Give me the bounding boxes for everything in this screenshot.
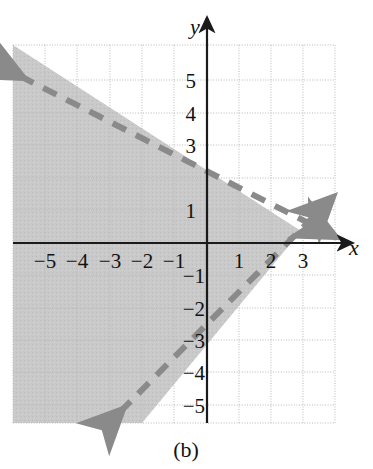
coordinate-plane-graph: x y −5 −4 −3 −2 −1 1 2 3 5 4 3 1 −1 −2 −… bbox=[0, 0, 373, 469]
x-tick-label: 2 bbox=[266, 249, 277, 273]
x-tick-label: −2 bbox=[131, 249, 153, 273]
figure-panel: x y −5 −4 −3 −2 −1 1 2 3 5 4 3 1 −1 −2 −… bbox=[0, 0, 373, 469]
y-tick-label: −2 bbox=[183, 297, 205, 321]
x-tick-label: 3 bbox=[298, 249, 309, 273]
x-tick-label: −3 bbox=[99, 249, 121, 273]
y-tick-label: 5 bbox=[186, 69, 197, 93]
x-tick-label: −4 bbox=[66, 249, 89, 273]
x-tick-label: 1 bbox=[234, 249, 245, 273]
panel-label: (b) bbox=[173, 437, 199, 462]
y-tick-label: 3 bbox=[186, 134, 197, 158]
x-axis-label: x bbox=[348, 235, 359, 260]
y-tick-label: −1 bbox=[183, 264, 205, 288]
y-tick-label: −5 bbox=[183, 394, 205, 418]
y-axis-label: y bbox=[188, 14, 200, 39]
y-tick-label: −3 bbox=[183, 329, 205, 353]
x-tick-labels: −5 −4 −3 −2 −1 1 2 3 bbox=[34, 249, 308, 273]
y-tick-label: 1 bbox=[186, 199, 197, 223]
x-tick-label: −5 bbox=[34, 249, 56, 273]
y-tick-label: 4 bbox=[186, 102, 197, 126]
y-tick-label: −4 bbox=[183, 361, 206, 385]
